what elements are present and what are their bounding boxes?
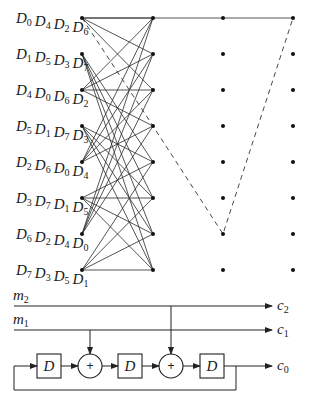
trellis-node [151, 196, 155, 200]
trellis-node [80, 52, 84, 56]
output-label-c1: c1 [277, 321, 289, 339]
state-labels: D0D4D2D6D1D5D3D7D4D0D6D2D5D1D7D3D2D6D0D4… [15, 10, 88, 289]
delay-label: D [206, 358, 218, 374]
trellis-node [80, 16, 84, 20]
trellis-node [151, 16, 155, 20]
state-label-6: D6D2D4D0 [15, 226, 88, 253]
trellis-node [80, 196, 84, 200]
trellis-node [151, 88, 155, 92]
trellis-branch [82, 18, 153, 54]
input-label-m1: m1 [13, 311, 29, 329]
trellis-branch [82, 162, 153, 270]
delay-label: D [43, 358, 55, 374]
state-label-0: D0D4D2D6 [15, 10, 88, 37]
trellis-node [291, 88, 295, 92]
trellis-node [221, 232, 225, 236]
state-label-7: D7D3D5D1 [15, 262, 88, 289]
input-label-m2: m2 [13, 287, 29, 305]
trellis-node [221, 268, 225, 272]
trellis-node [291, 268, 295, 272]
trellis-node [221, 160, 225, 164]
trellis-node [291, 232, 295, 236]
trellis-node [151, 124, 155, 128]
output-label-c0: c0 [277, 357, 289, 375]
adder-symbol: + [86, 359, 93, 373]
state-label-2: D4D0D6D2 [15, 82, 88, 109]
trellis-branch [82, 18, 153, 234]
convolutional-encoder: m2m1c2c1c0DDD++ [13, 287, 289, 390]
state-label-5: D3D7D1D5 [15, 190, 88, 217]
trellis-node [80, 232, 84, 236]
trellis-node [291, 16, 295, 20]
adder-symbol: + [167, 359, 174, 373]
state-label-4: D2D6D0D4 [15, 154, 88, 181]
state-label-1: D1D5D3D7 [15, 46, 88, 73]
trellis-node [151, 232, 155, 236]
trellis-edges [82, 18, 153, 270]
trellis-node [221, 124, 225, 128]
trellis-branch [82, 234, 153, 270]
trellis-node [291, 196, 295, 200]
trellis-branch [82, 90, 153, 234]
trellis-node [80, 88, 84, 92]
trellis-node [221, 52, 225, 56]
trellis-node [291, 52, 295, 56]
trellis-node [221, 16, 225, 20]
trellis-nodes [80, 16, 295, 272]
trellis-node [221, 88, 225, 92]
trellis-node [151, 52, 155, 56]
trellis-node [291, 160, 295, 164]
trellis-node [151, 160, 155, 164]
trellis-node [80, 124, 84, 128]
trellis-node [80, 160, 84, 164]
tcm-trellis-and-encoder-diagram: D0D4D2D6D1D5D3D7D4D0D6D2D5D1D7D3D2D6D0D4… [0, 0, 309, 403]
delay-label: D [124, 358, 136, 374]
trellis-node [151, 268, 155, 272]
trellis-node [80, 268, 84, 272]
state-label-3: D5D1D7D3 [15, 118, 88, 145]
trellis-node [291, 124, 295, 128]
trellis-node [221, 196, 225, 200]
output-label-c2: c2 [277, 297, 289, 315]
